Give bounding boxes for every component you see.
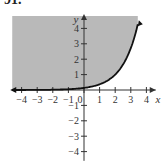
x-tick-label: 2 xyxy=(113,94,118,105)
x-tick-label: 3 xyxy=(128,94,133,105)
graph: −4−3−2−101234−4−3−2−11234xy xyxy=(0,0,165,164)
x-tick-label: 1 xyxy=(97,94,102,105)
x-tick-label: −4 xyxy=(16,94,27,105)
y-tick-label: 3 xyxy=(74,38,79,49)
x-tick-label: 4 xyxy=(144,94,149,105)
x-tick-label: −3 xyxy=(32,94,43,105)
curve-arrow-icon xyxy=(138,20,143,26)
y-tick-label: 1 xyxy=(74,69,79,80)
y-axis-label: y xyxy=(73,13,79,25)
x-axis-label: x xyxy=(155,93,161,105)
y-tick-label: −1 xyxy=(68,100,79,111)
y-tick-label: 2 xyxy=(74,54,79,65)
x-tick-label: −2 xyxy=(47,94,58,105)
y-tick-label: −2 xyxy=(68,115,79,126)
y-tick-label: −3 xyxy=(68,131,79,142)
y-tick-label: −4 xyxy=(68,146,79,157)
